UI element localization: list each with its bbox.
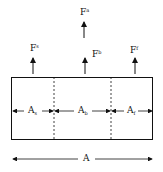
force-label-left: Fs (30, 42, 39, 53)
dimension-arrows (13, 111, 152, 159)
diagram-canvas (0, 0, 163, 172)
force-label-right: Ff (130, 44, 138, 55)
force-label-middle: Fb (92, 48, 101, 59)
area-label-middle: Ab (78, 106, 88, 118)
force-label-total: Fa (80, 6, 89, 17)
area-label-right: Af (127, 106, 135, 118)
area-label-total: A (83, 154, 90, 163)
area-label-left: As (28, 106, 37, 118)
